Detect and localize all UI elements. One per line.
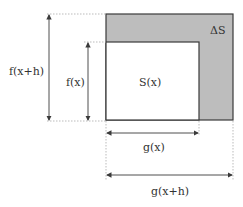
g-x-label: g(x): [143, 141, 165, 154]
area-diagram-svg: ΔS S(x) f(x) f(x+h) g(x) g(x+h): [0, 0, 243, 207]
g-xh-label: g(x+h): [151, 185, 189, 198]
diagram: ΔS S(x) f(x) f(x+h) g(x) g(x+h): [0, 0, 243, 207]
f-xh-label: f(x+h): [9, 65, 44, 78]
f-x-label: f(x): [66, 76, 85, 89]
s-x-label: S(x): [139, 76, 161, 89]
delta-s-label: ΔS: [210, 24, 225, 37]
